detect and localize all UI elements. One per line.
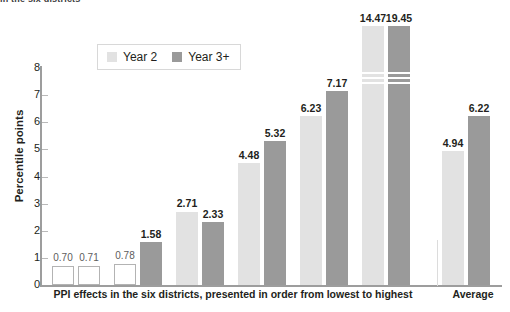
bar-value-label: 1.58 — [141, 228, 161, 240]
bar-value-label: 6.23 — [301, 102, 321, 114]
bar — [176, 212, 198, 286]
bar — [52, 266, 74, 285]
bar — [326, 91, 348, 285]
bar-value-label: 4.94 — [443, 137, 463, 149]
bar-value-label: 0.70 — [53, 252, 72, 263]
bar — [362, 26, 384, 285]
bar — [264, 141, 286, 285]
bar-value-label: 0.78 — [115, 250, 134, 261]
average-group-divider — [437, 240, 438, 286]
bar-value-label: 14.47 — [360, 12, 386, 24]
bar — [388, 26, 410, 285]
axis-break-mark — [388, 77, 410, 79]
bar — [140, 242, 162, 285]
bar-value-label: 19.45 — [386, 12, 412, 24]
axis-break-mark — [388, 82, 410, 84]
bar-chart: in the six districts 012345678 Percentil… — [0, 0, 510, 312]
x-axis-label-average: Average — [440, 288, 506, 300]
axis-break-mark — [388, 72, 410, 74]
y-axis-title: Percentile points — [13, 81, 25, 231]
bar — [300, 116, 322, 285]
plot-area: 0.700.710.781.582.712.334.485.326.237.17… — [42, 0, 502, 285]
x-axis-line — [40, 285, 502, 287]
bar-value-label: 5.32 — [265, 127, 285, 139]
y-tick-label: 0 — [6, 278, 40, 290]
bar — [238, 163, 260, 285]
bar-value-label: 7.17 — [327, 77, 347, 89]
bar-value-label: 0.71 — [79, 252, 98, 263]
bar-value-label: 4.48 — [239, 149, 259, 161]
y-tick-label: 8 — [6, 61, 40, 73]
x-axis-label-main: PPI effects in the six districts, presen… — [44, 288, 422, 300]
bar-value-label: 6.22 — [469, 102, 489, 114]
axis-break-mark — [362, 82, 384, 84]
bar — [468, 116, 490, 285]
y-tick-label: 1 — [6, 251, 40, 263]
bar — [78, 266, 100, 285]
bar — [114, 264, 136, 285]
bar-value-label: 2.33 — [203, 208, 223, 220]
bar — [442, 151, 464, 285]
bar — [202, 222, 224, 285]
bar-value-label: 2.71 — [177, 197, 197, 209]
axis-break-mark — [362, 72, 384, 74]
axis-break-mark — [362, 77, 384, 79]
